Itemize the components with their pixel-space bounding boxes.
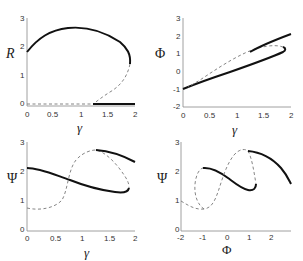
- xtick: 0: [25, 110, 30, 119]
- ytick: 1: [176, 49, 181, 58]
- xtick: 2: [289, 111, 294, 120]
- ytick: 2: [176, 32, 181, 41]
- xtick: 1.5: [104, 234, 116, 243]
- unstable-branch: [27, 150, 129, 209]
- stable-lower-branch: [27, 168, 129, 193]
- axis-lines: [27, 18, 135, 106]
- axis-lines: [183, 18, 291, 107]
- xtick: 1: [247, 233, 252, 242]
- xtick: 1: [79, 110, 84, 119]
- ytick: 3: [20, 14, 25, 23]
- xtick: 0.5: [50, 234, 62, 243]
- x-axis-label: γ: [77, 120, 83, 135]
- stable-lower-branch: [203, 168, 256, 190]
- xtick: 0.5: [47, 110, 59, 119]
- ytick: 1: [20, 71, 25, 80]
- figure: 3 2 1 0 0 0.5 1 1.5 2 R γ 3 2 1 0 -1 -2 …: [0, 0, 303, 261]
- y-axis-label: Ψ: [7, 171, 18, 186]
- xtick: -1: [199, 233, 207, 242]
- xtick: 2: [133, 110, 138, 119]
- ytick: -2: [173, 102, 181, 111]
- panel-psi-vs-gamma: 3 2 1 0 0 0.5 1 1.5 2 Ψ γ: [7, 138, 138, 260]
- xtick: 0: [25, 234, 30, 243]
- ytick: 3: [20, 138, 25, 147]
- ytick: 0: [176, 67, 181, 76]
- panel-r-vs-gamma: 3 2 1 0 0 0.5 1 1.5 2 R γ: [5, 14, 138, 135]
- unstable-loop-left: [195, 168, 204, 209]
- ytick: 2: [20, 167, 25, 176]
- ytick: 2: [20, 42, 25, 51]
- ytick: 3: [176, 14, 181, 23]
- stable-upper-branch: [96, 150, 135, 162]
- y-axis-label: R: [5, 46, 15, 61]
- panel-phi-vs-gamma: 3 2 1 0 -1 -2 0 0.5 1 1.5 2 Φ γ: [155, 14, 294, 137]
- ytick: -1: [173, 85, 181, 94]
- xtick: 2: [133, 234, 138, 243]
- ytick: 2: [175, 167, 180, 176]
- x-axis-label: γ: [232, 122, 238, 137]
- x-axis-label: γ: [84, 245, 90, 260]
- xtick: 0: [181, 111, 186, 120]
- xtick: 1: [80, 234, 85, 243]
- ytick: 3: [175, 138, 180, 147]
- stable-lower-branch: [183, 47, 285, 89]
- stable-upper-branch: [27, 28, 130, 64]
- unstable-branch: [181, 150, 256, 210]
- xtick: 1.5: [102, 110, 114, 119]
- ytick: 0: [20, 225, 25, 234]
- panel-psi-vs-phi: 3 2 1 0 -2 -1 0 1 2 Ψ Φ: [157, 138, 291, 257]
- y-axis-label: Ψ: [157, 171, 168, 186]
- x-axis-label: Φ: [222, 242, 232, 257]
- ytick: 0: [20, 99, 25, 108]
- axis-lines: [181, 142, 291, 231]
- unstable-middle-branch: [93, 64, 130, 104]
- xtick: 0: [225, 233, 230, 242]
- stable-upper-branch: [248, 151, 291, 184]
- xtick: 1.5: [258, 111, 270, 120]
- xtick: 1: [235, 111, 240, 120]
- xtick: -2: [177, 233, 185, 242]
- ytick: 1: [20, 196, 25, 205]
- y-axis-label: Φ: [155, 46, 165, 61]
- xtick: 0.5: [204, 111, 216, 120]
- xtick: 2: [269, 233, 274, 242]
- ytick: 1: [175, 196, 180, 205]
